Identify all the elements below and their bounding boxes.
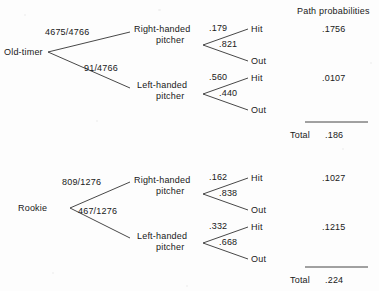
tree2-total-value: .224 <box>325 275 343 285</box>
tree2-branch1-path-probability: .1027 <box>322 173 346 183</box>
tree1-total-label: Total <box>290 130 310 140</box>
tree1-branch2-hit-label: Hit <box>251 73 263 83</box>
tree2-branch2-node-line2: pitcher <box>156 242 184 253</box>
tree2-branch2-path-probability: .1215 <box>322 222 346 232</box>
tree1-branch2-fraction: 91/4766 <box>84 63 118 73</box>
tree1-branch2-out-label: Out <box>251 105 266 115</box>
tree1-branch1-hit-prob: .179 <box>209 23 227 33</box>
tree2-branch2-hit-prob: .332 <box>209 221 227 231</box>
scan-speckle <box>158 9 161 11</box>
tree1-branch1-hit-label: Hit <box>251 24 263 34</box>
tree1-branch2-path-probability: .0107 <box>322 73 346 83</box>
scan-speckle <box>342 148 344 150</box>
tree1-branch1-path-probability: .1756 <box>322 24 346 34</box>
tree2-branch2-out-prob: .668 <box>219 237 237 247</box>
tree1-branch1-node-line2: pitcher <box>156 35 184 46</box>
scan-speckle <box>96 120 98 122</box>
scan-speckle <box>24 14 26 16</box>
scan-speckle <box>370 62 372 64</box>
tree2-branch2-out-label: Out <box>251 254 266 264</box>
tree2-branch2-node-line1: Left-handed <box>137 231 187 242</box>
tree1-branch1-node-line1: Right-handed <box>134 24 190 35</box>
tree1-branch2-hit-prob: .560 <box>209 72 227 82</box>
tree2-branch1-node-line1: Right-handed <box>134 175 190 186</box>
tree1-branch1-out-label: Out <box>251 56 266 66</box>
tree-diagram-lines <box>0 0 379 291</box>
tree2-branch1-fraction: 809/1276 <box>62 177 101 187</box>
scan-speckle <box>52 272 54 274</box>
tree2-branch1-node-line2: pitcher <box>156 186 184 197</box>
tree1-branch2-out-prob: .440 <box>219 88 237 98</box>
tree2-total-label: Total <box>290 275 310 285</box>
tree1-total-value: .186 <box>325 130 343 140</box>
tree2-root-label: Rookie <box>18 203 47 213</box>
path-probabilities-header: Path probabilities <box>297 6 370 16</box>
scan-speckle <box>186 285 188 287</box>
tree1-branch2-node-line2: pitcher <box>156 91 184 102</box>
tree1-root-label: Old-timer <box>4 47 43 57</box>
tree2-branch2-hit-label: Hit <box>251 222 263 232</box>
tree2-branch1-hit-prob: .162 <box>209 172 227 182</box>
tree1-branch1-out-prob: .821 <box>219 39 237 49</box>
tree2-branch1-out-prob: .838 <box>219 188 237 198</box>
tree2-branch1-hit-label: Hit <box>251 173 263 183</box>
tree1-branch2-node-line1: Left-handed <box>137 80 187 91</box>
tree2-branch2-fraction: 467/1276 <box>78 206 117 216</box>
tree2-branch1-out-label: Out <box>251 205 266 215</box>
tree1-branch1-fraction: 4675/4766 <box>45 27 89 37</box>
